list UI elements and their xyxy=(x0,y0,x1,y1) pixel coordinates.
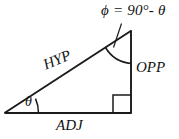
theta-angle-arc xyxy=(36,99,39,113)
phi-label-leader-line xyxy=(114,24,122,48)
trigonometry-diagram: ϕ = 90°- θ HYP OPP ADJ θ xyxy=(0,0,179,139)
phi-equation-label: ϕ = 90°- θ xyxy=(101,3,166,18)
adjacent-label: ADJ xyxy=(56,118,83,133)
opposite-label: OPP xyxy=(136,60,165,75)
phi-angle-arc xyxy=(106,48,132,64)
right-angle-marker xyxy=(113,95,131,113)
theta-angle-label: θ xyxy=(25,95,32,109)
